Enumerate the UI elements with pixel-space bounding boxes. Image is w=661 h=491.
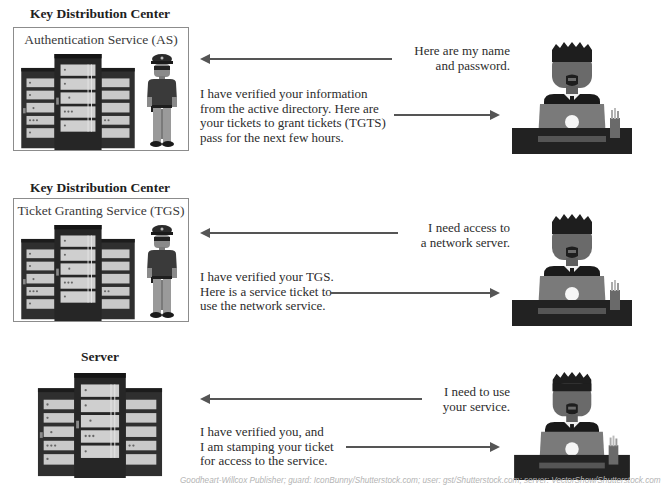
response-message-2: I have verified your TGS. Here is a serv… (200, 270, 334, 314)
ticket-granting-service-box: Ticket Granting Service (TGS) (13, 198, 189, 322)
server-rack-icon (20, 54, 136, 150)
section-3-title: Server (10, 349, 190, 365)
user-at-laptop-icon (508, 212, 636, 326)
request-message-2: I need access to a network server. (421, 221, 510, 250)
authentication-service-label: Authentication Service (AS) (14, 32, 188, 48)
response-message-1: I have verified your information from th… (200, 87, 386, 145)
request-arrow-2 (202, 232, 398, 234)
authentication-service-box: Authentication Service (AS) (13, 27, 189, 151)
response-message-3: I have verified you, and I am stamping y… (200, 425, 334, 469)
guard-icon (144, 53, 180, 149)
image-credit: Goodheart-Willcox Publisher; guard: Icon… (180, 476, 661, 485)
response-arrow-2 (330, 292, 498, 294)
request-arrow-1 (202, 58, 392, 60)
server-rack-icon (20, 225, 136, 321)
section-2-title: Key Distribution Center (10, 180, 190, 196)
request-arrow-3 (202, 398, 422, 400)
response-arrow-1 (394, 114, 498, 116)
user-at-laptop-icon (508, 370, 636, 480)
guard-icon (144, 224, 180, 320)
response-arrow-3 (346, 446, 498, 448)
section-1-title: Key Distribution Center (10, 6, 190, 22)
server-rack-icon (35, 373, 165, 478)
request-message-1: Here are my name and password. (414, 44, 510, 73)
request-message-3: I need to use your service. (443, 385, 510, 414)
user-at-laptop-icon (508, 40, 636, 154)
ticket-granting-service-label: Ticket Granting Service (TGS) (14, 203, 188, 219)
